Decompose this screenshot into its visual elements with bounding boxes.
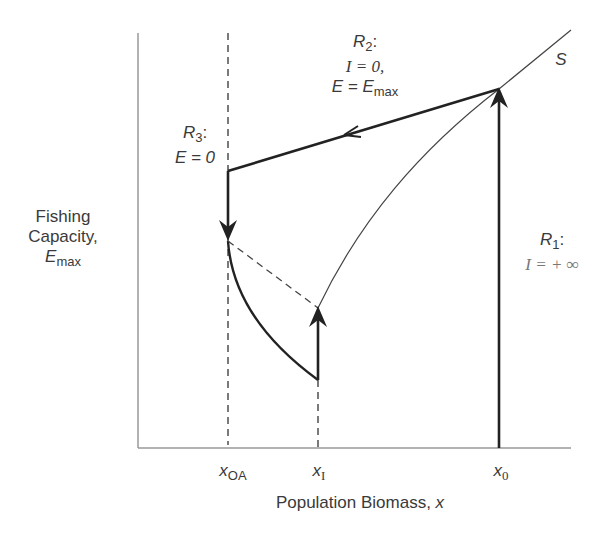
tick-x-oa: xOA — [208, 461, 258, 486]
x-axis-label: Population Biomass, x — [240, 493, 480, 513]
connector-dashed-line — [228, 241, 318, 308]
y-axis-label-line2: Capacity, — [18, 227, 108, 247]
tick-x-0: x0 — [484, 461, 518, 486]
curve-s-label: S — [551, 50, 571, 70]
r1-label: R1: I = + ∞ — [512, 230, 592, 275]
y-axis-label-line3: Emax — [18, 247, 108, 272]
tick-x-i: xI — [302, 461, 336, 486]
r3-label: R3: E = 0 — [160, 123, 230, 168]
y-axis-label: Fishing Capacity, Emax — [18, 207, 108, 272]
recovery-curve — [228, 241, 318, 380]
y-axis-label-line1: Fishing — [18, 207, 108, 227]
r2-label: R2: I = 0, E = Emax — [300, 32, 430, 102]
